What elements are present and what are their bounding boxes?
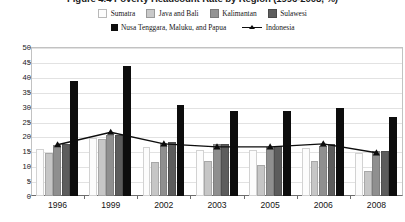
bar [151, 162, 159, 196]
bar [196, 150, 204, 196]
legend-label-java-and-bali: Java and Bali [159, 9, 199, 18]
legend-item-sulawesi: Sulawesi [268, 9, 307, 18]
y-axis-tick-label: 10 [5, 162, 31, 171]
bar [302, 148, 310, 196]
legend-item-indonesia: Indonesia [242, 23, 294, 32]
x-axis-tick-label: 1996 [48, 200, 67, 210]
legend-swatch-sulawesi [268, 9, 277, 18]
bar-group-2008 [350, 47, 403, 196]
bar [106, 135, 114, 196]
legend-label-sumatra: Sumatra [111, 9, 136, 18]
y-axis-tick-mark [28, 196, 31, 197]
bar [70, 81, 78, 196]
bar-group-1999 [84, 47, 137, 196]
x-axis-tick-label: 2006 [314, 200, 333, 210]
x-axis-tick-label: 2002 [154, 200, 173, 210]
x-axis-tick-mark [84, 196, 85, 200]
bar [355, 153, 363, 196]
legend-label-sulawesi: Sulawesi [280, 9, 307, 18]
y-axis-tick-label: 20 [5, 132, 31, 141]
y-axis-tick-label: 0 [5, 192, 31, 201]
bar [319, 146, 327, 196]
legend-label-indonesia: Indonesia [266, 23, 295, 32]
bar-group-1996 [31, 47, 84, 196]
bar [249, 150, 257, 196]
x-axis-tick-mark [190, 196, 191, 200]
y-axis-tick-label: 15 [5, 147, 31, 156]
plot-area [31, 47, 403, 196]
bar [381, 151, 389, 196]
legend-label-kalimantan: Kalimantan [222, 9, 256, 18]
y-axis-tick-label: 35 [5, 87, 31, 96]
bar [274, 146, 282, 196]
bar [230, 111, 238, 196]
bar [328, 144, 336, 196]
bar [311, 161, 319, 196]
bar [213, 144, 221, 196]
bar [168, 142, 176, 196]
bar [89, 138, 97, 196]
legend-swatch-nusa-tenggara [111, 24, 118, 31]
bar-group-2005 [244, 47, 297, 196]
y-axis-tick-label: 30 [5, 102, 31, 111]
bar-group-2003 [190, 47, 243, 196]
x-axis-tick-mark [137, 196, 138, 200]
legend-item-nusa-tenggara: Nusa Tenggara, Maluku, and Papua [111, 23, 227, 32]
chart-legend-row-1: Sumatra Java and Bali Kalimantan Sulawes… [0, 9, 405, 18]
x-axis-tick-label: 1999 [101, 200, 120, 210]
x-axis-tick-label: 2005 [261, 200, 280, 210]
poverty-headcount-chart: Figure 4.4 Poverty Headcount Rate by Reg… [0, 0, 405, 222]
bar [336, 108, 344, 196]
y-axis-tick-label: 5 [5, 177, 31, 186]
bar [266, 147, 274, 196]
bar-group-2002 [137, 47, 190, 196]
legend-line-marker-indonesia [242, 24, 262, 32]
x-axis-tick-label: 2003 [207, 200, 226, 210]
legend-label-nusa-tenggara: Nusa Tenggara, Maluku, and Papua [121, 23, 226, 32]
bar [364, 171, 372, 196]
bar-group-2006 [297, 47, 350, 196]
y-axis-tick-label: 25 [5, 117, 31, 126]
bar [389, 117, 397, 196]
legend-swatch-sumatra [98, 9, 107, 18]
y-axis: 05101520253035404550 [0, 47, 31, 196]
bar [98, 139, 106, 197]
bar [143, 147, 151, 196]
y-axis-tick-label: 45 [5, 57, 31, 66]
bar [177, 105, 185, 196]
legend-item-java-and-bali: Java and Bali [146, 9, 198, 18]
bar [62, 144, 70, 196]
legend-item-sumatra: Sumatra [98, 9, 135, 18]
x-axis-tick-mark [350, 196, 351, 200]
bar [53, 145, 61, 196]
x-axis-tick-mark [297, 196, 298, 200]
bar [257, 165, 265, 196]
bar [36, 149, 44, 196]
legend-swatch-kalimantan [210, 9, 219, 18]
x-axis: 1996199920022003200520062008 [31, 200, 403, 220]
y-axis-tick-label: 50 [5, 43, 31, 52]
chart-title: Figure 4.4 Poverty Headcount Rate by Reg… [0, 0, 405, 4]
bar [160, 143, 168, 196]
x-axis-tick-label: 2008 [367, 200, 386, 210]
chart-legend-row-2: Nusa Tenggara, Maluku, and Papua Indones… [0, 23, 405, 32]
legend-item-kalimantan: Kalimantan [210, 9, 257, 18]
bar [123, 66, 131, 196]
bar [45, 153, 53, 196]
bar [372, 151, 380, 196]
bar [204, 161, 212, 196]
legend-swatch-java-and-bali [146, 9, 155, 18]
y-axis-tick-label: 40 [5, 72, 31, 81]
bar [221, 144, 229, 196]
x-axis-tick-mark [244, 196, 245, 200]
bar [115, 135, 123, 196]
bar [283, 111, 291, 196]
